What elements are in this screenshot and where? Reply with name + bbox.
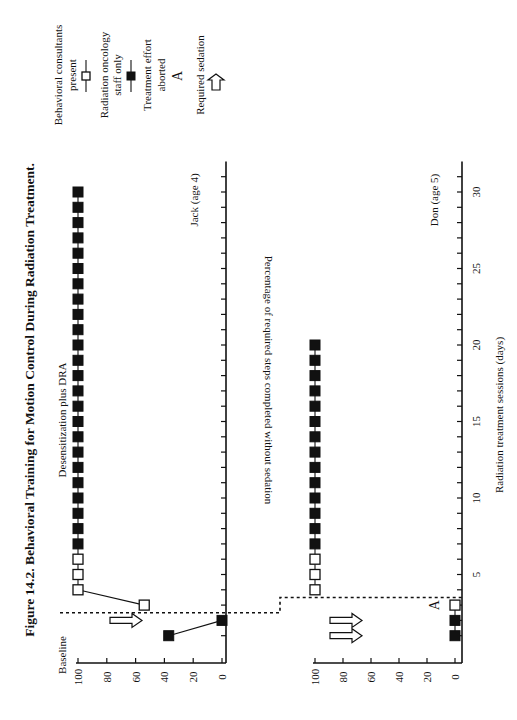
open-square-marker (310, 570, 320, 580)
filled-square-marker (310, 401, 320, 411)
filled-square-marker (73, 386, 83, 396)
percent-tick-label: 0 (449, 674, 461, 680)
filled-square-marker (73, 493, 83, 503)
percent-tick-label: 60 (365, 671, 377, 683)
filled-square-marker (73, 355, 83, 365)
filled-square-marker (310, 432, 320, 442)
filled-square-marker (73, 447, 83, 457)
open-square-marker (73, 570, 83, 580)
legend-label-staff-1: Radiation oncology (98, 31, 110, 118)
filled-square-marker (164, 631, 174, 641)
filled-square-marker (73, 539, 83, 549)
filled-square-marker (310, 539, 320, 549)
figure-title: Figure 14.2. Behavioral Training for Mot… (22, 163, 37, 637)
session-tick-label: 15 (470, 416, 482, 428)
aborted-a-icon: A (170, 70, 185, 81)
filled-square-marker (450, 615, 460, 625)
percent-tick-label: 20 (187, 671, 199, 683)
filled-square-marker (310, 355, 320, 365)
session-tick-label: 5 (470, 571, 482, 577)
filled-square-marker (73, 462, 83, 472)
filled-square-marker (217, 615, 227, 625)
filled-square-marker (73, 233, 83, 243)
filled-square-marker (73, 202, 83, 212)
filled-square-marker (73, 524, 83, 534)
filled-square-marker (310, 508, 320, 518)
y-axis-label: Percentage of required steps completed w… (263, 256, 275, 505)
filled-square-marker (73, 371, 83, 381)
panel-label-don: Don (age 5) (428, 173, 441, 226)
filled-square-marker (73, 325, 83, 335)
percent-tick-label: 40 (158, 671, 170, 683)
open-square-marker (139, 600, 149, 610)
filled-square-marker (310, 340, 320, 350)
filled-square-marker (73, 187, 83, 197)
filled-square-marker (73, 432, 83, 442)
chart-canvas: Figure 14.2. Behavioral Training for Mot… (0, 0, 517, 720)
panel-label-jack: Jack (age 4) (188, 173, 201, 226)
legend-label-sedation: Required sedation (194, 35, 206, 115)
filled-square-marker (73, 309, 83, 319)
filled-square-marker (73, 248, 83, 258)
filled-square-marker (73, 478, 83, 488)
session-tick-label: 30 (470, 186, 482, 198)
percent-tick-label: 40 (393, 671, 405, 683)
aborted-a-icon: A (427, 599, 442, 610)
open-square-marker (310, 554, 320, 564)
session-tick-label: 25 (470, 263, 482, 275)
filled-square-marker (73, 508, 83, 518)
filled-square-marker (450, 631, 460, 641)
data-line (169, 620, 222, 635)
panel-jack: 020406080100 (60, 161, 228, 685)
session-tick-label: 20 (470, 339, 482, 351)
filled-square-marker (310, 371, 320, 381)
legend-label-consultants-2: present (66, 59, 78, 91)
figure: Figure 14.2. Behavioral Training for Mot… (0, 0, 517, 720)
percent-tick-label: 100 (72, 668, 84, 685)
open-square-marker (73, 554, 83, 564)
filled-square-marker (73, 340, 83, 350)
open-square-marker (310, 585, 320, 595)
open-square-marker (73, 585, 83, 595)
filled-square-marker (310, 493, 320, 503)
percent-tick-label: 80 (337, 671, 349, 683)
sedation-arrow-icon (208, 74, 224, 90)
filled-square-marker (310, 462, 320, 472)
filled-square-icon (127, 60, 135, 92)
legend: Behavioral consultants present Radiation… (52, 25, 224, 126)
filled-square-marker (310, 524, 320, 534)
legend-label-staff-2: staff only (111, 54, 123, 96)
phase-label-treatment: Desensitization plus DRA (56, 363, 68, 478)
percent-tick-label: 20 (421, 671, 433, 683)
legend-label-aborted-2: aborted (155, 58, 167, 91)
data-line (78, 590, 144, 605)
filled-square-marker (310, 386, 320, 396)
filled-square-marker (310, 478, 320, 488)
percent-tick-label: 80 (101, 671, 113, 683)
legend-label-aborted-1: Treatment effort (141, 39, 153, 111)
filled-square-marker (73, 401, 83, 411)
sedation-arrow-icon (330, 613, 362, 627)
open-square-marker (450, 600, 460, 610)
open-square-icon (82, 60, 90, 92)
phase-label-baseline: Baseline (56, 636, 68, 674)
percent-tick-label: 0 (216, 674, 228, 680)
filled-square-marker (73, 294, 83, 304)
legend-label-consultants-1: Behavioral consultants (52, 25, 64, 126)
filled-square-marker (310, 417, 320, 427)
x-axis-label: Radiation treatment sessions (days) (493, 337, 506, 493)
percent-tick-label: 60 (130, 671, 142, 683)
sedation-arrow-icon (330, 629, 362, 643)
filled-square-marker (73, 264, 83, 274)
percent-tick-label: 100 (309, 668, 321, 685)
sedation-arrow-icon (110, 613, 142, 627)
filled-square-marker (73, 279, 83, 289)
filled-square-marker (73, 218, 83, 228)
filled-square-marker (73, 417, 83, 427)
session-tick-label: 10 (470, 492, 482, 504)
filled-square-marker (310, 447, 320, 457)
